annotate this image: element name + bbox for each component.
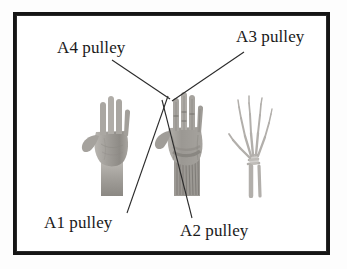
label-a4-pulley: A4 pulley <box>57 38 125 58</box>
hand-xray-image <box>227 88 283 198</box>
label-a2-pulley: A2 pulley <box>180 221 248 241</box>
hand-photograph-image <box>79 88 143 198</box>
figure-container: A4 pulley A3 pulley A1 pulley A2 pulley <box>0 0 347 269</box>
hand-anatomy-image <box>153 86 219 198</box>
label-a1-pulley: A1 pulley <box>44 213 112 233</box>
label-a3-pulley: A3 pulley <box>236 27 304 47</box>
